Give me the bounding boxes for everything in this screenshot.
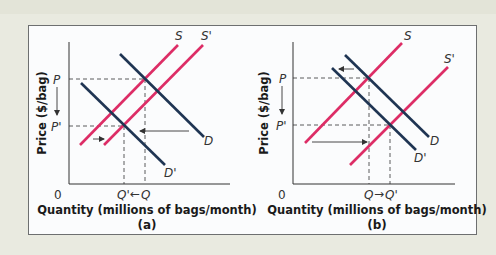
- panel-b: S S' D D' P P' 0 Q → Q' Quantity (millio…: [257, 29, 487, 232]
- x-axis-title: Quantity (millions of bags/month): [267, 203, 486, 217]
- origin-label: 0: [54, 188, 62, 202]
- y-axis-title: Price ($/bag): [257, 71, 271, 155]
- quantity-label-q-prime: Q': [385, 188, 398, 202]
- demand-curve-d: [120, 54, 204, 137]
- price-label-p: P: [279, 72, 287, 86]
- price-label-p: P: [53, 73, 61, 87]
- supply-curve-s-prime: [104, 45, 203, 145]
- quantity-label-q: Q: [364, 188, 373, 202]
- guide-lines: [293, 78, 390, 184]
- label-d-prime: D': [414, 151, 427, 165]
- price-label-p-prime: P': [276, 119, 287, 133]
- quantity-label-q: Q: [141, 188, 150, 202]
- quantity-arrow: →: [374, 187, 384, 201]
- price-label-p-prime: P': [51, 120, 62, 134]
- y-axis-title: Price ($/bag): [35, 71, 49, 155]
- origin-label: 0: [278, 188, 286, 202]
- x-axis-title: Quantity (millions of bags/month): [37, 203, 256, 217]
- guide-lines: [69, 79, 145, 184]
- quantity-arrow: ←: [130, 187, 140, 201]
- panel-caption: (b): [367, 218, 387, 232]
- label-d-prime: D': [164, 166, 177, 180]
- quantity-label-q-prime: Q': [117, 188, 130, 202]
- panel-a: S S' D D' P P' 0 Q' ← Q Quantity (millio…: [35, 29, 257, 232]
- label-s-prime: S': [201, 29, 212, 43]
- panel-caption: (a): [137, 218, 156, 232]
- label-d: D: [204, 134, 213, 148]
- label-s: S: [175, 29, 183, 43]
- supply-demand-figure: S S' D D' P P' 0 Q' ← Q Quantity (millio…: [0, 0, 496, 255]
- label-s-prime: S': [444, 52, 455, 66]
- label-s: S: [404, 29, 412, 43]
- demand-curve-d-prime: [332, 68, 416, 150]
- label-d: D: [430, 134, 439, 148]
